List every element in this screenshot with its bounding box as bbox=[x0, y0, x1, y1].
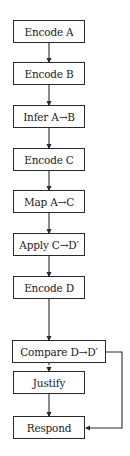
node-apply-c-d: Apply C→D′ bbox=[13, 233, 85, 256]
node-map-a-c: Map A→C bbox=[13, 190, 85, 213]
node-encode-c: Encode C bbox=[13, 148, 85, 171]
node-encode-a: Encode A bbox=[13, 20, 85, 43]
node-label: Apply C→D′ bbox=[19, 239, 78, 251]
node-label: Encode B bbox=[24, 68, 73, 80]
node-label: Infer A→B bbox=[23, 111, 75, 123]
arrow-compare-to-respond-bypass bbox=[86, 352, 122, 428]
node-respond: Respond bbox=[13, 416, 85, 439]
node-label: Encode C bbox=[24, 154, 73, 166]
node-compare-d-d: Compare D→D′ bbox=[12, 340, 106, 363]
node-label: Map A→C bbox=[24, 196, 74, 208]
node-justify: Justify bbox=[13, 371, 85, 394]
node-label: Encode D bbox=[24, 282, 74, 294]
node-infer-a-b: Infer A→B bbox=[13, 105, 85, 128]
node-encode-d: Encode D bbox=[13, 276, 85, 299]
node-label: Compare D→D′ bbox=[20, 346, 97, 358]
node-label: Encode A bbox=[25, 26, 74, 38]
node-label: Justify bbox=[33, 377, 65, 389]
node-encode-b: Encode B bbox=[13, 62, 85, 85]
node-label: Respond bbox=[27, 422, 72, 434]
